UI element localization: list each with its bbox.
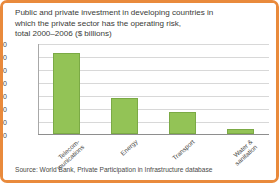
x-axis-tick-label: Telecom- munications [31,138,85,183]
x-axis-tick-label: Energy [89,138,138,183]
y-axis-tick-label: 300 [0,54,7,61]
x-axis-line [38,134,269,135]
chart-title: Public and private investment in develop… [15,8,267,40]
bar [169,112,196,134]
y-axis-line [38,44,39,135]
y-axis-tick-label: 250 [0,67,7,74]
y-axis-tick-label: 150 [0,93,7,100]
gridline [38,44,269,45]
y-axis-tick-label: 100 [0,106,7,113]
bar [227,129,254,134]
y-axis-tick-label: 50 [0,119,7,126]
figure-frame: Public and private investment in develop… [0,0,279,183]
figure-canvas: Public and private investment in develop… [3,3,276,180]
source-note: Source: World Bank, Private Participatio… [15,166,212,174]
x-axis-tick-label: Water & sanitation [205,138,259,183]
bar [111,98,138,134]
plot-area [38,44,269,135]
bar [53,53,80,134]
y-axis-tick-label: 350 [0,41,7,48]
x-axis-tick-label: Transport [147,138,196,183]
y-axis-tick-label: 0 [0,132,7,139]
y-axis-tick-label: 200 [0,80,7,87]
